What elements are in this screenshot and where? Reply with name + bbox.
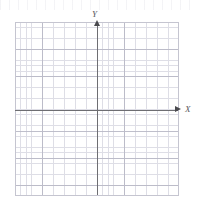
x-axis-arrow-icon bbox=[175, 106, 181, 112]
y-axis-arrow-icon bbox=[94, 20, 100, 26]
y-axis-line bbox=[97, 23, 98, 195]
x-axis-label: X bbox=[185, 105, 191, 114]
y-axis-label: Y bbox=[92, 10, 97, 19]
scan-artifact-speckles bbox=[0, 0, 197, 10]
coordinate-grid-figure: X Y bbox=[0, 0, 197, 205]
